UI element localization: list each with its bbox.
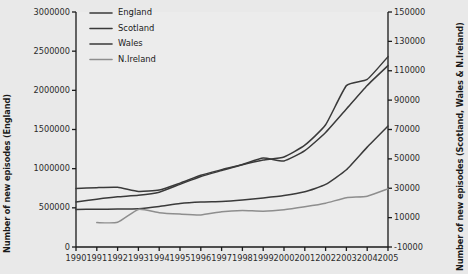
legend-label-nireland: N.Ireland	[118, 54, 156, 64]
line-chart-figure: Number of new episodes (England) Number …	[0, 0, 468, 274]
series-line-nireland	[97, 189, 388, 223]
series-line-england	[76, 57, 388, 202]
series-line-scotland	[76, 66, 388, 192]
chart-plot-svg	[0, 0, 468, 274]
legend-label-wales: Wales	[118, 38, 143, 48]
legend-label-scotland: Scotland	[118, 23, 154, 33]
legend-label-england: England	[118, 7, 152, 17]
